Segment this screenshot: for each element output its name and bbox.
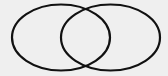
- venn-diagram: [0, 0, 168, 76]
